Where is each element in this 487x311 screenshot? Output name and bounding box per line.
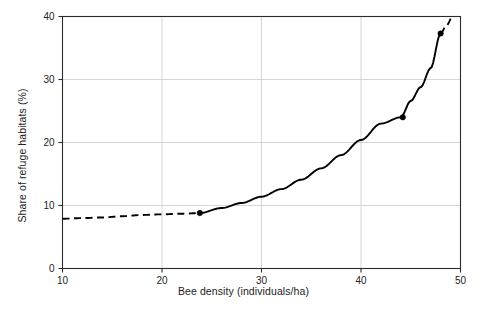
y-tick-label: 0 (29, 263, 55, 274)
y-tick-label: 10 (29, 200, 55, 211)
series-line-solid (200, 34, 441, 214)
data-point-marker (438, 31, 443, 36)
y-tick-label: 40 (29, 11, 55, 22)
x-tick-label: 10 (43, 275, 83, 286)
chart-plot-area (0, 0, 487, 311)
x-tick-label: 40 (341, 275, 381, 286)
series-line-dashed (441, 17, 453, 34)
y-tick-label: 20 (29, 137, 55, 148)
chart-figure: Bee density (individuals/ha) Share of re… (0, 0, 487, 311)
x-tick-label: 50 (441, 275, 481, 286)
series-line-dashed (63, 213, 200, 219)
x-tick-label: 20 (142, 275, 182, 286)
x-axis-title: Bee density (individuals/ha) (0, 285, 487, 297)
data-point-marker (400, 115, 405, 120)
x-tick-label: 30 (242, 275, 282, 286)
data-point-marker (197, 210, 202, 215)
y-tick-label: 30 (29, 74, 55, 85)
